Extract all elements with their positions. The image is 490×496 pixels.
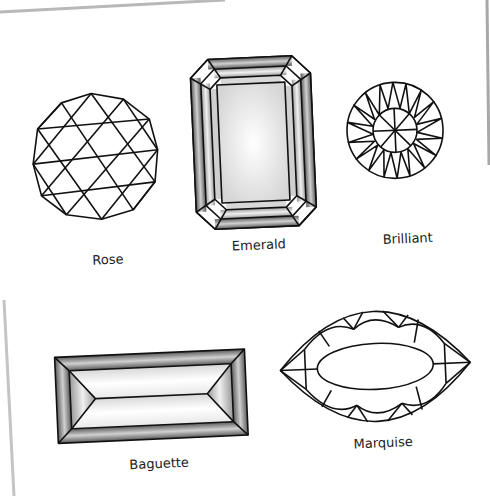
scanned-page: Rose: [0, 0, 490, 496]
marquise-cut: [278, 307, 473, 425]
baguette-cut: [55, 349, 249, 443]
emerald-cut: [190, 55, 317, 230]
rose-cut: [30, 91, 160, 222]
label-brilliant: Brilliant: [382, 230, 433, 247]
page-top-edge: [0, 0, 225, 12]
gem-cuts-figure: Rose: [0, 0, 490, 496]
label-baguette: Baguette: [129, 455, 189, 473]
label-emerald: Emerald: [232, 236, 287, 253]
page-right-edge: [487, 0, 489, 165]
label-marquise: Marquise: [353, 434, 413, 452]
label-rose: Rose: [92, 251, 124, 267]
brilliant-cut: [345, 80, 445, 180]
page-left-edge: [4, 300, 14, 496]
